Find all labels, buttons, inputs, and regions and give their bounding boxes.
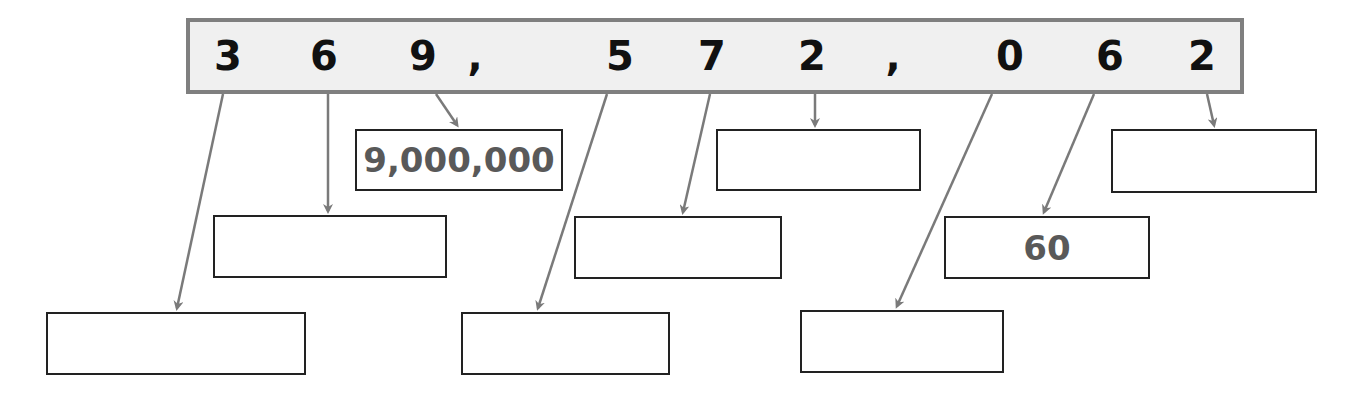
place-value-box[interactable] xyxy=(461,312,670,375)
place-value-text: 60 xyxy=(1023,228,1070,268)
place-value-box[interactable] xyxy=(716,129,921,191)
arrow-icon xyxy=(1207,94,1214,125)
place-value-box[interactable] xyxy=(213,215,447,278)
arrow-icon xyxy=(436,94,457,125)
place-value-box[interactable] xyxy=(574,216,782,279)
arrow-icon xyxy=(1044,94,1094,212)
place-value-box[interactable] xyxy=(1111,129,1317,193)
arrow-icon xyxy=(683,94,710,212)
place-value-box: 9,000,000 xyxy=(355,129,563,191)
place-value-box[interactable] xyxy=(46,312,306,375)
place-value-text: 9,000,000 xyxy=(363,140,554,180)
place-value-box[interactable] xyxy=(800,310,1004,373)
place-value-box: 60 xyxy=(944,216,1150,279)
